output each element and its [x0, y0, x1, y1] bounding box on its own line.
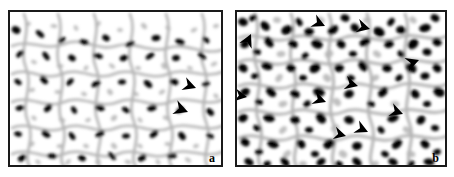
panel-a-tissue-svg — [10, 12, 221, 165]
panel-a: a — [8, 10, 223, 167]
panel-b: b — [235, 10, 447, 167]
panel-b-label: b — [432, 152, 439, 164]
panel-b-tissue-image — [237, 12, 445, 165]
panel-a-tissue-image — [10, 12, 221, 165]
figure-container: a b — [0, 0, 454, 177]
panel-b-tissue-svg — [237, 12, 445, 165]
panel-a-label: a — [209, 152, 215, 164]
